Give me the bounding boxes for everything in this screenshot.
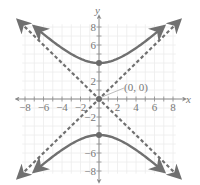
- x-tick-label: 8: [170, 101, 176, 113]
- center-label: (0, 0): [124, 81, 148, 94]
- x-axis-label: x: [185, 93, 191, 105]
- x-tick-label: 2: [115, 101, 121, 113]
- center-label-leader: [102, 88, 124, 97]
- x-tick-label: −8: [19, 101, 31, 113]
- y-tick-label: −6: [84, 147, 96, 159]
- y-tick-label: −8: [84, 165, 96, 177]
- y-axis-label: y: [94, 4, 100, 16]
- y-tick-label: −2: [84, 111, 96, 123]
- y-tick-label: 8: [91, 21, 97, 33]
- hyperbola-chart: −8−6−4−22468862−2−6−8 x y (0, 0): [0, 0, 200, 185]
- x-tick-label: 6: [152, 101, 158, 113]
- x-tick-label: 4: [133, 101, 139, 113]
- x-tick-label: −6: [38, 101, 50, 113]
- marked-point: [96, 60, 102, 66]
- marked-point: [96, 96, 102, 102]
- x-tick-label: −4: [56, 101, 68, 113]
- y-tick-label: 2: [91, 75, 97, 87]
- y-tick-label: 6: [91, 39, 97, 51]
- marked-point: [96, 132, 102, 138]
